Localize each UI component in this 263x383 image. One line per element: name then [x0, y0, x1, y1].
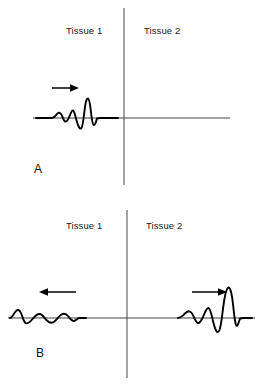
transmitted-pulse-waveform: [178, 287, 252, 332]
panel-b: Tissue 1 Tissue 2 B: [0, 192, 263, 383]
transmitted-arrow-icon: [192, 288, 227, 296]
reflected-pulse-waveform: [10, 310, 86, 324]
reflected-arrow-icon: [39, 288, 76, 296]
panel-a: Tissue 1 Tissue 2 A: [0, 0, 263, 192]
wave-interface-figure: Tissue 1 Tissue 2 A Tissue 1 Tissue 2: [0, 0, 263, 383]
panel-a-letter: A: [34, 162, 42, 176]
incident-pulse-waveform: [36, 99, 118, 129]
incident-arrow-icon: [52, 84, 79, 92]
panel-b-letter: B: [36, 346, 44, 360]
